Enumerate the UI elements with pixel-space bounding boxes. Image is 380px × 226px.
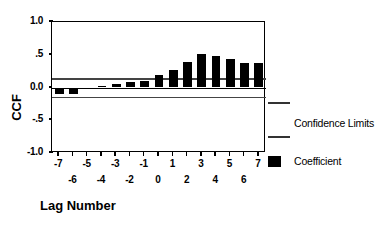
y-axis: 1.0.50.0-.5-1.0 [0, 0, 49, 226]
coefficient-box-icon [268, 156, 281, 167]
bar [240, 63, 249, 88]
bar [254, 63, 263, 88]
x-tick-mark [129, 152, 131, 156]
ccf-chart: 1.0.50.0-.5-1.0 CCF -7-6-5-4-3-2-1012345… [0, 0, 380, 226]
y-tick-label: 1.0 [30, 16, 43, 26]
x-tick-mark [243, 152, 245, 156]
y-axis-title: CCF [9, 80, 24, 136]
bar [197, 54, 206, 87]
confidence-limit-lower [52, 97, 266, 99]
x-tick-label: 1 [162, 159, 182, 169]
x-tick-label: -1 [134, 159, 154, 169]
x-tick-mark [172, 152, 174, 156]
x-tick-label: -3 [105, 159, 125, 169]
x-tick-mark [57, 152, 59, 156]
bar [183, 62, 192, 88]
y-tick-label: 0.0 [30, 82, 43, 92]
confidence-line-icon [268, 136, 290, 138]
x-tick-label: 3 [191, 159, 211, 169]
x-tick-label: 4 [205, 175, 225, 185]
x-tick-label: 6 [234, 175, 254, 185]
bar [155, 75, 164, 87]
x-tick-mark [157, 152, 159, 156]
x-axis-title: Lag Number [40, 198, 116, 213]
x-tick-label: -2 [119, 175, 139, 185]
x-tick-mark [114, 152, 116, 156]
x-tick-mark [72, 152, 74, 156]
x-tick-label: -6 [62, 175, 82, 185]
x-tick-mark [186, 152, 188, 156]
x-tick-label: 0 [148, 175, 168, 185]
x-tick-mark [214, 152, 216, 156]
x-tick-label: -5 [77, 159, 97, 169]
confidence-line-icon [268, 102, 290, 104]
legend-label-coefficient: Coefficient [294, 153, 341, 169]
x-tick-mark [100, 152, 102, 156]
bar [140, 81, 149, 88]
x-tick-mark [200, 152, 202, 156]
x-tick-mark [86, 152, 88, 156]
x-tick-mark [229, 152, 231, 156]
x-tick-label: 5 [219, 159, 239, 169]
x-tick-label: -7 [48, 159, 68, 169]
plot-inner [52, 22, 264, 151]
y-tick-label: -.5 [32, 114, 43, 124]
bar [212, 56, 221, 87]
zero-line [52, 88, 266, 90]
y-tick-label: -1.0 [27, 147, 43, 157]
plot-area [51, 21, 265, 152]
legend-label-confidence: Confidence Limits [294, 115, 374, 131]
x-tick-mark [143, 152, 145, 156]
x-tick-label: 7 [248, 159, 268, 169]
bar [169, 70, 178, 87]
bar [226, 59, 235, 87]
x-tick-mark [257, 152, 259, 156]
y-tick-label: .5 [35, 49, 43, 59]
x-tick-label: 2 [177, 175, 197, 185]
x-tick-label: -4 [91, 175, 111, 185]
